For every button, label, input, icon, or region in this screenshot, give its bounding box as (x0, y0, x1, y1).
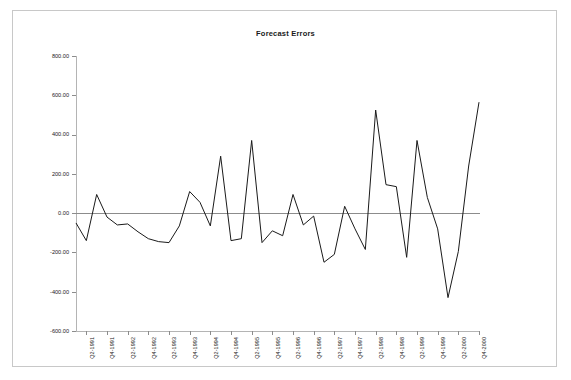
x-axis-tick-label: Q2-2000 (461, 337, 467, 359)
x-axis-tick (355, 331, 356, 335)
x-axis-tick (231, 331, 232, 335)
x-axis-tick-label: Q2-1997 (337, 337, 343, 359)
x-axis-tick (107, 331, 108, 335)
x-axis-tick (293, 331, 294, 335)
x-axis-tick (438, 331, 439, 335)
x-axis-tick-label: Q4-1996 (316, 337, 322, 359)
x-axis-tick-label: Q2-1995 (254, 337, 260, 359)
x-axis-tick-label: Q4-1993 (192, 337, 198, 359)
x-axis-tick-label: Q4-1995 (275, 337, 281, 359)
x-axis-tick-label: Q4-1992 (151, 337, 157, 359)
x-axis-tick (458, 331, 459, 335)
y-axis-tick-label: -600.00 (23, 328, 69, 334)
y-axis-tick-label: 400.00 (23, 131, 69, 137)
plot-area: 800.00600.00400.00200.000.00-200.00-400.… (13, 11, 558, 368)
x-axis-tick (169, 331, 170, 335)
forecast-errors-line (76, 56, 479, 331)
chart-frame: Forecast Errors 800.00600.00400.00200.00… (12, 10, 557, 367)
y-axis-tick-label: 800.00 (23, 53, 69, 59)
x-axis-tick (252, 331, 253, 335)
y-axis-tick-label: 600.00 (23, 92, 69, 98)
x-axis-tick-label: Q2-1996 (295, 337, 301, 359)
y-axis-tick-label: 200.00 (23, 171, 69, 177)
x-axis-tick-label: Q4-1999 (440, 337, 446, 359)
x-axis-tick (272, 331, 273, 335)
x-axis-tick (396, 331, 397, 335)
y-axis-tick-label: -400.00 (23, 289, 69, 295)
x-axis-tick-label: Q2-1993 (171, 337, 177, 359)
x-axis-tick-label: Q2-1992 (130, 337, 136, 359)
x-axis-tick (376, 331, 377, 335)
y-axis-tick-label: -200.00 (23, 249, 69, 255)
x-axis-tick-label: Q2-1991 (89, 337, 95, 359)
x-axis-tick (417, 331, 418, 335)
x-axis-tick-label: Q4-1994 (233, 337, 239, 359)
x-axis-tick (148, 331, 149, 335)
x-axis-tick-label: Q4-1997 (357, 337, 363, 359)
x-axis-tick-label: Q4-1991 (109, 337, 115, 359)
x-axis-tick (190, 331, 191, 335)
x-axis-tick-label: Q2-1998 (378, 337, 384, 359)
x-axis-tick (128, 331, 129, 335)
x-axis-tick-label: Q2-1994 (213, 337, 219, 359)
x-axis-tick (86, 331, 87, 335)
x-axis-tick-label: Q2-1999 (419, 337, 425, 359)
x-axis-tick (479, 331, 480, 335)
x-axis-tick (210, 331, 211, 335)
y-axis-labels: 800.00600.00400.00200.000.00-200.00-400.… (21, 11, 69, 368)
x-axis-tick (314, 331, 315, 335)
x-axis-tick (334, 331, 335, 335)
series-polyline (76, 102, 479, 297)
x-axis-line (76, 331, 480, 332)
x-axis-tick-label: Q4-2000 (481, 337, 487, 359)
x-axis-tick-label: Q4-1998 (399, 337, 405, 359)
y-axis-tick-label: 0.00 (23, 210, 69, 216)
